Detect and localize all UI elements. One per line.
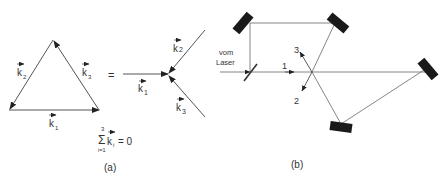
vertex-label-k3: k 3 (176, 99, 186, 115)
svg-text:i=1: i=1 (98, 147, 106, 153)
svg-text:2: 2 (179, 46, 183, 53)
momentum-conservation-formula: 3 Σ i=1 k i = 0 (98, 126, 133, 153)
input-label-vom: vom (219, 48, 233, 57)
svg-text:Σ: Σ (98, 133, 105, 147)
equals-sign: = (108, 69, 114, 81)
mirror-right (417, 58, 438, 81)
triangle-label-k3: k 3 (82, 64, 92, 80)
svg-text:= 0: = 0 (118, 136, 133, 147)
beam-right-to-bottom (341, 70, 424, 124)
svg-text:i: i (113, 142, 114, 148)
beam-3-arrow (300, 52, 312, 72)
beam-label-1: 1 (282, 61, 287, 71)
triangle-edge-k3 (54, 41, 99, 110)
vertex-label-k1: k 1 (138, 81, 148, 96)
panel-a: k 2 k 3 k 1 = k 2 k 1 (9, 30, 205, 173)
mirror-bottom (329, 121, 352, 133)
svg-text:3: 3 (101, 126, 105, 132)
beamsplitter (244, 64, 257, 81)
beam-label-2: 2 (294, 96, 299, 106)
beam-label-3: 3 (294, 45, 299, 55)
vertex-label-k2: k 2 (173, 40, 183, 54)
panel-b: vom Laser 1 2 3 (b) (216, 12, 439, 170)
svg-text:2: 2 (23, 74, 27, 80)
beam-paths (220, 23, 426, 124)
figure-canvas: k 2 k 3 k 1 = k 2 k 1 (0, 0, 446, 181)
svg-text:1: 1 (144, 89, 148, 96)
svg-text:3: 3 (88, 74, 92, 80)
beam-bottom-to-cross (312, 72, 341, 124)
beam-top-right-to-cross (312, 23, 335, 72)
triangle-label-k2: k 2 (17, 64, 27, 80)
vertex-vector-k3 (169, 76, 205, 117)
svg-text:3: 3 (182, 108, 186, 115)
panel-b-caption: (b) (291, 159, 303, 170)
svg-text:1: 1 (55, 125, 59, 131)
input-label-laser: Laser (216, 58, 235, 67)
triangle-label-k1: k 1 (49, 115, 59, 131)
wavevector-vertex (123, 30, 205, 117)
panel-a-caption: (a) (104, 162, 116, 173)
beam-2-arrow (302, 72, 312, 91)
